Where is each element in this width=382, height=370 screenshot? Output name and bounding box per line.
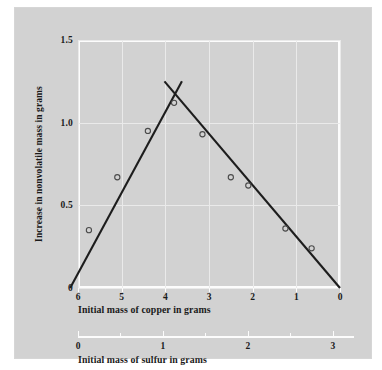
x-tick-label: 5 bbox=[119, 292, 124, 302]
sulfur-tick-label: 2 bbox=[245, 341, 250, 351]
y-tick-label: 1.0 bbox=[61, 118, 73, 128]
y-axis-title: Increase in nonvolatile mass in grams bbox=[32, 40, 46, 288]
sulfur-tick-label: 3 bbox=[330, 341, 335, 351]
plot-area: 00.51.01.5 6543210 bbox=[78, 40, 340, 288]
sulfur-tick-mark-minor bbox=[205, 333, 206, 336]
data-point bbox=[246, 183, 251, 188]
data-point bbox=[228, 175, 233, 180]
x-tick-label: 3 bbox=[207, 292, 212, 302]
sulfur-tick-label: 0 bbox=[76, 341, 81, 351]
data-point bbox=[145, 128, 150, 133]
data-point bbox=[171, 100, 176, 105]
data-point bbox=[86, 228, 91, 233]
sulfur-tick-mark bbox=[78, 331, 79, 336]
x-axis-title-copper: Initial mass of copper in grams bbox=[78, 304, 211, 315]
x-tick-label: 4 bbox=[163, 292, 168, 302]
x-tick-label: 2 bbox=[250, 292, 255, 302]
chart-canvas bbox=[78, 40, 340, 288]
y-tick-label: 0.5 bbox=[61, 200, 73, 210]
trend-line-falling-limb bbox=[164, 81, 340, 288]
data-point bbox=[115, 175, 120, 180]
data-point bbox=[283, 226, 288, 231]
x-tick-label: 6 bbox=[76, 292, 81, 302]
x-axis-title-sulfur: Initial mass of sulfur in grams bbox=[78, 354, 207, 365]
data-point bbox=[309, 246, 314, 251]
figure-panel: Increase in nonvolatile mass in grams 00… bbox=[14, 7, 372, 359]
sulfur-tick-mark bbox=[333, 331, 334, 336]
gridline-vertical bbox=[340, 40, 341, 288]
x-tick-label: 0 bbox=[338, 292, 343, 302]
sulfur-tick-mark bbox=[248, 331, 249, 336]
sulfur-tick-mark-minor bbox=[290, 333, 291, 336]
sulfur-tick-mark-minor bbox=[120, 333, 121, 336]
data-point bbox=[200, 132, 205, 137]
x-tick-label: 1 bbox=[294, 292, 299, 302]
sulfur-tick-mark bbox=[163, 331, 164, 336]
y-tick-label: 1.5 bbox=[61, 35, 73, 45]
trend-line-rising-limb bbox=[70, 81, 182, 288]
sulfur-tick-label: 1 bbox=[161, 341, 166, 351]
secondary-axis-sulfur: 0123 bbox=[78, 336, 354, 338]
